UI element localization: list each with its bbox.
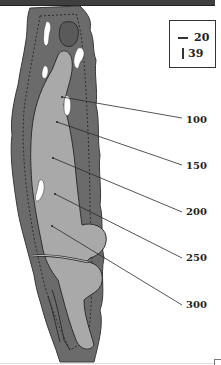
distance-marker-100: 100 — [186, 114, 207, 125]
distance-marker-200: 200 — [186, 206, 207, 217]
bottom-divider — [0, 363, 214, 364]
legend-value: 39 — [188, 47, 203, 60]
legend-row-horizontal: 20 — [178, 31, 209, 44]
green — [59, 22, 78, 47]
vertical-line-icon — [182, 48, 184, 59]
legend-value: 20 — [194, 31, 209, 44]
distance-marker-300: 300 — [186, 299, 207, 310]
legend-row-vertical: 39 — [178, 47, 203, 60]
expand-icon[interactable] — [214, 359, 221, 365]
distance-marker-250: 250 — [186, 252, 207, 263]
horizontal-line-icon — [178, 37, 188, 39]
distance-marker-150: 150 — [186, 160, 207, 171]
legend-box: 20 39 — [169, 20, 216, 68]
